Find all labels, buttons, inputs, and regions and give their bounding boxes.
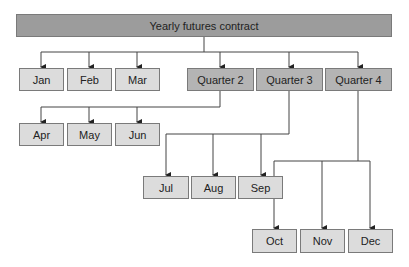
node-jul: Jul	[143, 176, 189, 199]
node-mar: Mar	[115, 68, 160, 91]
node-sep: Sep	[238, 176, 283, 199]
node-dec: Dec	[348, 229, 393, 253]
root-node-yearly-contract: Yearly futures contract	[16, 14, 392, 37]
node-nov: Nov	[300, 229, 345, 253]
node-jun: Jun	[115, 123, 160, 146]
node-quarter-3: Quarter 3	[256, 68, 323, 91]
node-oct: Oct	[252, 229, 297, 253]
node-jan: Jan	[19, 68, 64, 91]
node-apr: Apr	[19, 123, 64, 146]
node-quarter-4: Quarter 4	[325, 68, 392, 91]
node-may: May	[67, 123, 112, 146]
node-feb: Feb	[67, 68, 112, 91]
node-quarter-2: Quarter 2	[187, 68, 254, 91]
node-aug: Aug	[191, 176, 236, 199]
